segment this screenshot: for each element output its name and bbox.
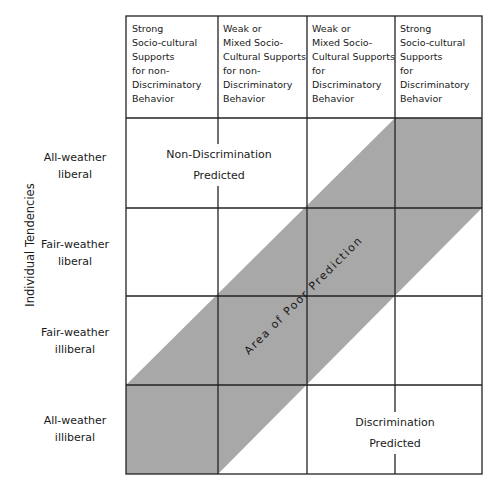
- column-header-4: Strong Socio-cultural Supports for Discr…: [400, 22, 469, 106]
- row-label-all-weather-liberal: All-weather liberal: [20, 149, 130, 183]
- row-label-fair-weather-illiberal: Fair-weather illiberal: [20, 324, 130, 358]
- column-header-3: Weak or Mixed Socio- Cultural Supports f…: [312, 22, 395, 106]
- column-header-1: Strong Socio-cultural Supports for non- …: [132, 22, 201, 106]
- row-label-all-weather-illiberal: All-weather illiberal: [20, 412, 130, 446]
- row-label-fair-weather-liberal: Fair-weather liberal: [20, 236, 130, 270]
- non-discrimination-predicted-label: Non-Discrimination Predicted: [160, 144, 278, 186]
- column-header-2: Weak or Mixed Socio- Cultural Supports f…: [223, 22, 306, 106]
- discrimination-predicted-label: Discrimination Predicted: [350, 412, 440, 454]
